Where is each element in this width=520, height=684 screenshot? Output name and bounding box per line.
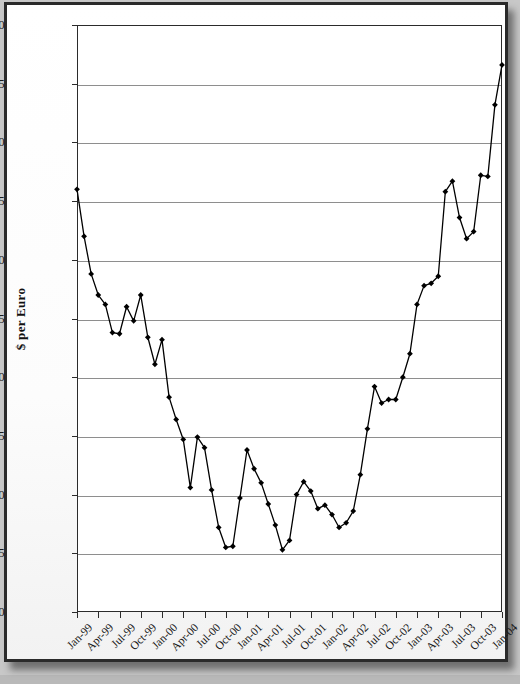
- data-point: [159, 337, 165, 343]
- x-tick-mark: [396, 612, 397, 618]
- x-tick-mark: [183, 612, 184, 618]
- y-tick-label: 0.80: [0, 604, 5, 620]
- y-axis-label: $ per Euro: [13, 288, 29, 350]
- y-tick-label: 1.05: [0, 311, 5, 327]
- x-tick-mark: [417, 612, 418, 618]
- data-point: [386, 397, 392, 403]
- y-tick-label: 1.20: [0, 134, 5, 150]
- data-point: [372, 384, 378, 390]
- data-point: [187, 485, 193, 491]
- data-point: [117, 331, 123, 337]
- x-tick-mark: [247, 612, 248, 618]
- data-point: [244, 447, 250, 453]
- y-tick-label: 1.25: [0, 76, 5, 92]
- y-tick-label: 0.85: [0, 545, 5, 561]
- data-point: [216, 525, 222, 531]
- data-point: [485, 174, 491, 180]
- data-point: [209, 487, 215, 493]
- x-tick-mark: [120, 612, 121, 618]
- data-point: [138, 292, 144, 298]
- data-point: [499, 62, 505, 68]
- data-point: [421, 283, 427, 289]
- data-point: [400, 374, 406, 380]
- data-point: [379, 400, 385, 406]
- data-series: [77, 25, 502, 612]
- y-tick-label: 0.95: [0, 428, 5, 444]
- x-tick-mark: [290, 612, 291, 618]
- line-chart: $ per Euro 1.301.251.201.151.101.051.000…: [7, 5, 511, 665]
- x-tick-mark: [77, 612, 78, 618]
- x-tick-mark: [481, 612, 482, 618]
- x-tick-mark: [268, 612, 269, 618]
- data-point: [145, 334, 151, 340]
- data-point: [110, 330, 116, 336]
- data-point: [251, 466, 257, 472]
- data-point: [237, 495, 243, 501]
- data-point: [315, 506, 321, 512]
- data-point: [407, 351, 413, 357]
- data-point: [294, 492, 300, 498]
- x-tick-mark: [332, 612, 333, 618]
- data-point: [365, 426, 371, 432]
- data-point: [414, 302, 420, 308]
- series-line: [77, 65, 502, 550]
- data-point: [74, 186, 80, 192]
- data-point: [265, 501, 271, 507]
- scanned-page: $ per Euro 1.301.251.201.151.101.051.000…: [4, 2, 508, 662]
- x-tick-mark: [502, 612, 503, 618]
- x-tick-mark: [98, 612, 99, 618]
- x-tick-mark: [375, 612, 376, 618]
- x-tick-mark: [353, 612, 354, 618]
- data-point: [272, 522, 278, 528]
- page-surface: $ per Euro 1.301.251.201.151.101.051.000…: [7, 5, 505, 659]
- data-point: [173, 417, 179, 423]
- x-tick-mark: [162, 612, 163, 618]
- data-point: [88, 271, 94, 277]
- data-point: [258, 480, 264, 486]
- x-tick-mark: [226, 612, 227, 618]
- data-point: [393, 397, 399, 403]
- data-point: [131, 318, 137, 324]
- data-point: [350, 508, 356, 514]
- y-tick-label: 1.10: [0, 252, 5, 268]
- data-point: [124, 304, 130, 310]
- data-point: [81, 233, 87, 239]
- x-tick-mark: [460, 612, 461, 618]
- data-point: [357, 472, 363, 478]
- data-point: [230, 543, 236, 549]
- x-tick-mark: [438, 612, 439, 618]
- data-point: [166, 394, 172, 400]
- x-tick-mark: [205, 612, 206, 618]
- y-tick-label: 1.00: [0, 369, 5, 385]
- y-tick-label: 0.90: [0, 487, 5, 503]
- y-tick-label: 1.30: [0, 17, 5, 33]
- data-point: [478, 172, 484, 178]
- data-point: [457, 215, 463, 221]
- data-point: [152, 361, 158, 367]
- x-tick-mark: [311, 612, 312, 618]
- data-point: [180, 437, 186, 443]
- y-tick-label: 1.15: [0, 193, 5, 209]
- data-point: [223, 545, 229, 551]
- data-point: [492, 102, 498, 108]
- x-tick-mark: [141, 612, 142, 618]
